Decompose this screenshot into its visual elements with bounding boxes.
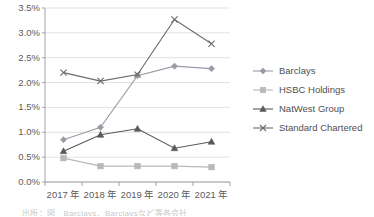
x-axis-tick-label: 2019 年	[121, 189, 155, 200]
axis-lines	[42, 8, 230, 182]
triangle-marker-icon	[252, 103, 274, 115]
legend-label: Standard Chartered	[279, 122, 362, 134]
series-layer	[60, 16, 215, 170]
x-axis-tick-labels: 2017 年2018 年2019 年2020 年2021 年	[47, 189, 229, 200]
y-axis-tick-label: 0.5%	[18, 151, 40, 162]
gridlines	[45, 8, 230, 182]
y-axis-tick-labels: 0.0%0.5%1.0%1.5%2.0%2.5%3.0%3.5%	[18, 2, 40, 187]
y-axis-tick-label: 3.0%	[18, 27, 40, 38]
source-caption: 出所：図 Barclays、Barclaysなど等各会社	[22, 207, 222, 216]
legend-item-hsbc-holdings[interactable]: HSBC Holdings	[252, 81, 372, 98]
data-point	[208, 66, 214, 72]
cross-marker-icon	[252, 122, 274, 134]
legend-label: NatWest Group	[279, 103, 344, 115]
data-point	[61, 155, 67, 161]
y-axis-tick-label: 1.0%	[18, 126, 40, 137]
line-chart: 0.0%0.5%1.0%1.5%2.0%2.5%3.0%3.5% 2017 年2…	[0, 0, 374, 217]
x-axis-tick-label: 2017 年	[47, 189, 81, 200]
x-axis-tick-label: 2020 年	[158, 189, 192, 200]
y-axis-tick-label: 2.5%	[18, 52, 40, 63]
square-marker-icon	[252, 84, 274, 96]
data-point	[208, 41, 214, 47]
legend-label: HSBC Holdings	[279, 84, 345, 96]
legend-item-standard-chartered[interactable]: Standard Chartered	[252, 119, 372, 136]
legend-item-natwest-group[interactable]: NatWest Group	[252, 100, 372, 117]
x-axis-tick-label: 2021 年	[195, 189, 229, 200]
data-point	[209, 164, 215, 170]
legend-label: Barclays	[279, 65, 315, 77]
data-point	[98, 163, 104, 169]
x-axis-tick-marks	[45, 182, 230, 186]
y-axis-tick-label: 1.5%	[18, 101, 40, 112]
series-natwest-group	[60, 125, 215, 153]
y-axis-tick-label: 0.0%	[18, 176, 40, 187]
data-point	[134, 125, 141, 131]
data-point	[208, 138, 215, 144]
data-point	[171, 63, 177, 69]
y-axis-tick-label: 2.0%	[18, 77, 40, 88]
data-point	[60, 137, 66, 143]
data-point	[172, 163, 178, 169]
x-axis-tick-label: 2018 年	[84, 189, 118, 200]
legend-item-barclays[interactable]: Barclays	[252, 62, 372, 79]
data-point	[171, 16, 177, 22]
chart-legend: Barclays HSBC Holdings NatWest Group Sta…	[252, 62, 372, 138]
diamond-marker-icon	[252, 65, 274, 77]
series-standard-chartered	[60, 16, 214, 84]
data-point	[135, 163, 141, 169]
y-axis-tick-label: 3.5%	[18, 2, 40, 13]
